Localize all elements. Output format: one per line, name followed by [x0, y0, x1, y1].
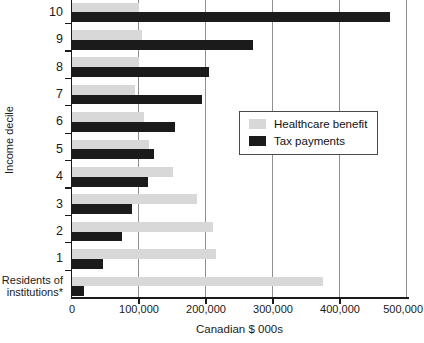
bar-healthcare-decile-9	[72, 30, 142, 40]
bar-tax-decile-7	[72, 95, 202, 105]
bar-tax-decile-10	[72, 12, 390, 22]
y-category-label-9: 9	[0, 32, 63, 46]
income-decile-bar-chart: Income decile Canadian $ 000s Healthcare…	[0, 0, 424, 343]
y-category-label-2: 2	[0, 224, 63, 238]
y-category-label-8: 8	[0, 60, 63, 74]
bar-tax-decile-2	[72, 232, 122, 242]
y-axis-tick	[65, 78, 71, 79]
x-tick-label-200000: 200,000	[186, 303, 226, 315]
y-axis-tick	[65, 242, 71, 243]
x-axis-line	[71, 297, 409, 299]
bar-healthcare-decile-1	[72, 249, 216, 259]
bar-healthcare-decile-4	[72, 167, 173, 177]
x-axis-title: Canadian $ 000s	[72, 323, 407, 335]
legend: Healthcare benefit Tax payments	[239, 111, 378, 155]
y-axis-tick	[65, 105, 71, 106]
y-category-label-residents: Residents of institutions*	[0, 273, 63, 298]
bar-healthcare-decile-8	[72, 57, 139, 67]
bar-tax-decile-3	[72, 204, 132, 214]
bar-tax-residents	[72, 286, 84, 296]
y-axis-tick	[65, 160, 71, 161]
y-axis-tick	[65, 50, 71, 51]
x-tick-label-500000: 500,000	[383, 303, 423, 315]
y-category-label-3: 3	[0, 197, 63, 211]
bar-tax-decile-1	[72, 259, 103, 269]
y-category-label-4: 4	[0, 169, 63, 183]
y-category-label-7: 7	[0, 87, 63, 101]
x-tick-label-300000: 300,000	[253, 303, 293, 315]
y-axis-tick	[65, 133, 71, 134]
y-category-label-5: 5	[0, 142, 63, 156]
y-axis-title: Income decile	[3, 100, 15, 180]
bar-tax-decile-9	[72, 40, 253, 50]
y-axis-tick	[65, 23, 71, 24]
bar-tax-decile-6	[72, 122, 175, 132]
y-axis-tick	[65, 215, 71, 216]
y-axis-line	[71, 0, 73, 299]
y-axis-tick	[65, 270, 71, 271]
bar-healthcare-decile-3	[72, 194, 197, 204]
legend-item-healthcare: Healthcare benefit	[249, 118, 367, 130]
y-category-label-6: 6	[0, 114, 63, 128]
y-category-label-1: 1	[0, 251, 63, 265]
legend-label-healthcare: Healthcare benefit	[274, 118, 367, 130]
bar-healthcare-decile-2	[72, 222, 213, 232]
bar-healthcare-decile-6	[72, 112, 144, 122]
bar-healthcare-decile-10	[72, 3, 139, 13]
gridline-500000	[406, 0, 407, 297]
x-tick-label-100000: 100,000	[119, 303, 159, 315]
legend-label-tax: Tax payments	[274, 135, 345, 147]
y-category-label-10: 10	[0, 5, 63, 19]
tax-payments-swatch	[249, 136, 266, 146]
x-tick-label-0: 0	[69, 303, 75, 315]
healthcare-benefit-swatch	[249, 119, 266, 129]
bar-tax-decile-5	[72, 149, 154, 159]
legend-item-tax: Tax payments	[249, 135, 367, 147]
bar-tax-decile-4	[72, 177, 148, 187]
bar-healthcare-decile-5	[72, 140, 149, 150]
y-axis-tick	[65, 187, 71, 188]
bar-tax-decile-8	[72, 67, 209, 77]
bar-healthcare-decile-7	[72, 85, 135, 95]
bar-healthcare-residents	[72, 277, 323, 287]
x-tick-label-400000: 400,000	[320, 303, 360, 315]
